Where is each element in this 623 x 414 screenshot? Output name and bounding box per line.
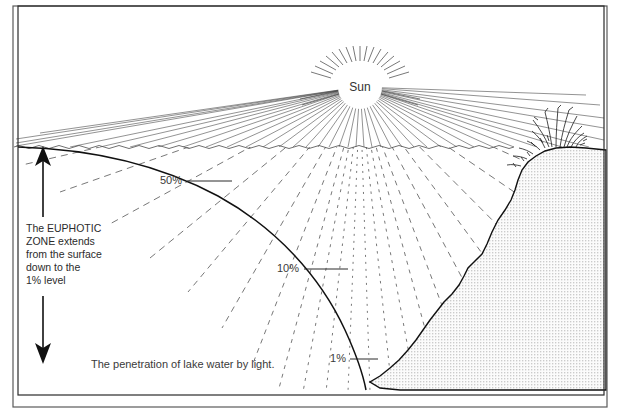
annotation-line-5: 1% level	[26, 274, 66, 286]
sun-label: Sun	[349, 80, 370, 94]
figure-canvas: Sun	[0, 0, 623, 414]
annotation-line-2: ZONE extends	[26, 235, 95, 247]
depth-label-10: 10%	[277, 262, 299, 274]
annotation-line-3: from the surface	[26, 248, 102, 260]
annotation-line-4: down to the	[26, 261, 80, 273]
lake-light-penetration-figure: Sun	[0, 0, 623, 414]
annotation-line-1: The EUPHOTIC	[26, 222, 102, 234]
depth-label-1: 1%	[330, 352, 346, 364]
depth-label-50: 50%	[160, 174, 182, 186]
figure-caption: The penetration of lake water by light.	[91, 358, 274, 370]
